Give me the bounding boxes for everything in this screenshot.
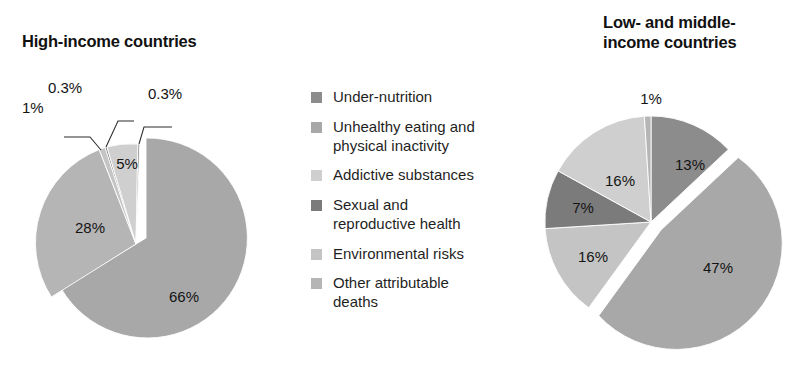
left-label-under-nutrition: 0.3% (148, 85, 182, 102)
legend-label-unhealthy-eating: Unhealthy eating and physical inactivity (333, 118, 475, 156)
left-chart-title: High-income countries (22, 31, 197, 51)
legend-swatch-other-attributable-deaths (311, 278, 322, 289)
legend-swatch-environmental-risks (311, 249, 322, 260)
left-label-sexual-reproductive-health: 0.3% (48, 79, 82, 96)
right-label-other-attributable-deaths: 1% (640, 90, 662, 107)
right-label-unhealthy-eating: 47% (703, 259, 733, 276)
right-label-environmental-risks: 16% (578, 248, 608, 265)
right-chart-title: Low- and middle- income countries (603, 12, 793, 52)
right-pie-chart: 13% 47% 16% 7% 16% 1% (525, 88, 791, 348)
leader-line-sexual-reproductive (106, 121, 134, 147)
legend: Under-nutrition Unhealthy eating and phy… (311, 88, 511, 323)
legend-item-environmental-risks[interactable]: Environmental risks (311, 245, 511, 264)
left-pie-chart: 66% 28% 5% (22, 96, 254, 344)
legend-item-sexual-reproductive-health[interactable]: Sexual and reproductive health (311, 196, 511, 234)
right-pie-svg: 13% 47% 16% 7% 16% 1% (525, 88, 791, 348)
left-label-environmental-risks: 1% (22, 99, 44, 116)
legend-label-under-nutrition: Under-nutrition (333, 88, 432, 107)
left-pie-svg: 66% 28% 5% (22, 96, 254, 344)
legend-swatch-sexual-reproductive-health (311, 200, 322, 211)
legend-swatch-unhealthy-eating (311, 122, 322, 133)
left-pie-slices (35, 138, 247, 338)
right-label-under-nutrition: 13% (675, 156, 705, 173)
legend-label-environmental-risks: Environmental risks (333, 245, 464, 264)
legend-item-other-attributable-deaths[interactable]: Other attributable deaths (311, 274, 511, 312)
right-chart-title-line1: Low- and middle- income countries (603, 13, 736, 51)
legend-label-other-attributable-deaths: Other attributable deaths (333, 274, 449, 312)
legend-item-addictive-substances[interactable]: Addictive substances (311, 166, 511, 185)
legend-swatch-addictive-substances (311, 170, 322, 181)
legend-item-under-nutrition[interactable]: Under-nutrition (311, 88, 511, 107)
left-label-other-attributable-deaths: 28% (75, 219, 105, 236)
legend-item-unhealthy-eating[interactable]: Unhealthy eating and physical inactivity (311, 118, 511, 156)
right-label-sexual-reproductive-health: 7% (572, 199, 594, 216)
legend-label-sexual-reproductive-health: Sexual and reproductive health (333, 196, 461, 234)
leader-line-environmental-risks (64, 137, 101, 150)
left-label-addictive-substances: 5% (116, 155, 138, 172)
left-label-unhealthy-eating: 66% (169, 288, 199, 305)
right-pie-slices (545, 116, 782, 349)
legend-swatch-under-nutrition (311, 92, 322, 103)
right-label-addictive-substances: 16% (605, 172, 635, 189)
legend-label-addictive-substances: Addictive substances (333, 166, 474, 185)
